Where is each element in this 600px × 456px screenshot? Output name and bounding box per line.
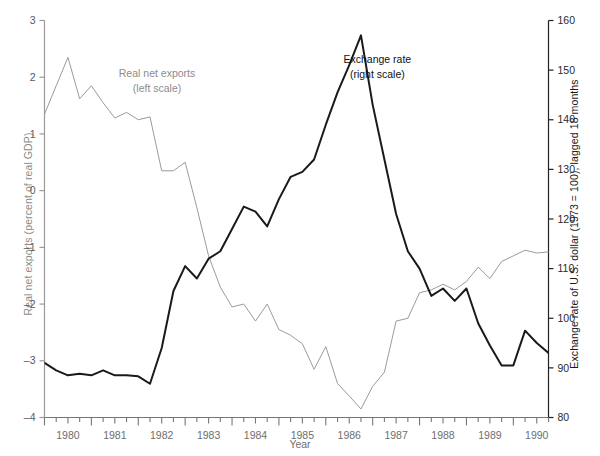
- real-net-exports-label-sub: (left scale): [133, 82, 181, 94]
- x-tick-label: 1989: [478, 429, 502, 441]
- x-tick-label: 1980: [56, 429, 80, 441]
- real-net-exports-label: Real net exports: [119, 67, 195, 79]
- x-tick-label: 1981: [103, 429, 127, 441]
- left-tick-label: –4: [24, 411, 36, 423]
- left-tick-label: 0: [30, 184, 36, 196]
- left-tick-label: –2: [24, 298, 36, 310]
- series-line-real-net-exports: [45, 57, 549, 409]
- x-tick-label: 1990: [525, 429, 549, 441]
- x-tick-label: 1982: [150, 429, 174, 441]
- right-tick-label: 130: [558, 163, 576, 175]
- left-tick-label: 2: [30, 71, 36, 83]
- left-tick-label: –3: [24, 354, 36, 366]
- right-tick-label: 150: [558, 64, 576, 76]
- right-tick-label: 110: [558, 262, 575, 274]
- left-tick-label: 3: [30, 14, 36, 26]
- chart-plot-area: 3210–1–2–3–41601501401301201101009080198…: [0, 0, 600, 456]
- x-tick-label: 1988: [431, 429, 455, 441]
- chart-figure: Real net exports (percent of real GDP) E…: [0, 0, 600, 456]
- x-tick-label: 1984: [244, 429, 268, 441]
- x-tick-label: 1987: [384, 429, 408, 441]
- series-line-exchange-rate: [45, 35, 549, 383]
- right-tick-label: 160: [558, 14, 576, 26]
- x-tick-label: 1983: [197, 429, 221, 441]
- x-tick-label: 1986: [338, 429, 362, 441]
- right-tick-label: 100: [558, 312, 576, 324]
- left-tick-label: –1: [24, 241, 36, 253]
- exchange-rate-label-sub: (right scale): [350, 68, 405, 80]
- right-tick-label: 80: [558, 411, 570, 423]
- right-tick-label: 90: [558, 362, 570, 374]
- right-tick-label: 140: [558, 113, 576, 125]
- left-tick-label: 1: [30, 128, 36, 140]
- x-tick-label: 1985: [291, 429, 315, 441]
- exchange-rate-label: Exchange rate: [344, 53, 412, 65]
- right-tick-label: 120: [558, 213, 576, 225]
